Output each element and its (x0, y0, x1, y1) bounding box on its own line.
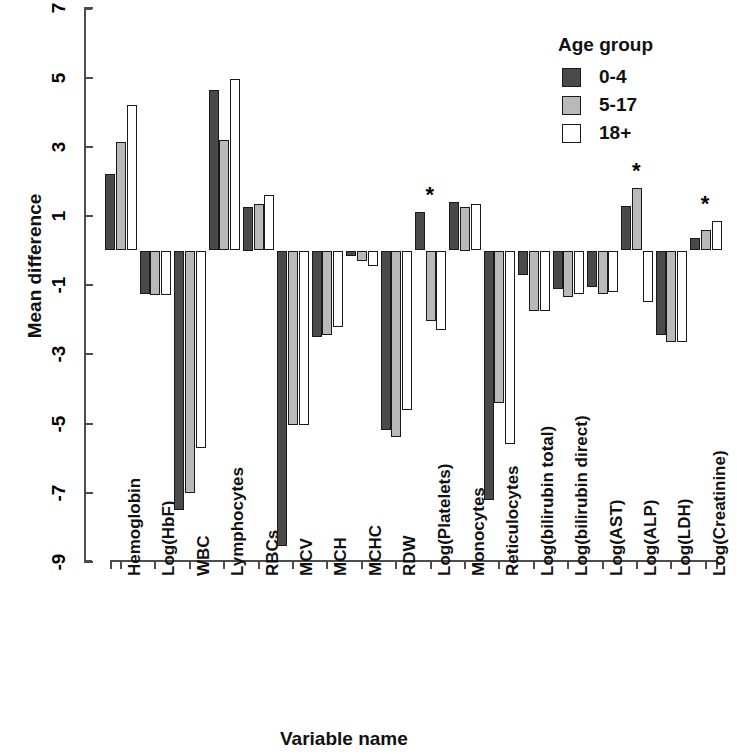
bar (608, 251, 618, 293)
bar-chart: 7531-1-3-5-7-9 Mean difference Hemoglobi… (0, 0, 737, 754)
bar (322, 251, 332, 336)
bar (150, 251, 160, 296)
bar (632, 188, 642, 250)
legend-item: 18+ (540, 122, 653, 144)
x-tick (602, 560, 604, 569)
bar (656, 251, 666, 336)
bar (426, 251, 436, 322)
y-tick (84, 561, 93, 563)
legend-title: Age group (558, 34, 653, 56)
bar (219, 140, 229, 251)
y-tick-label: -9 (44, 547, 74, 577)
bar (712, 221, 722, 250)
bar (540, 251, 550, 312)
bar (368, 251, 378, 267)
bar (587, 251, 597, 287)
legend-label: 18+ (599, 122, 631, 144)
bar (484, 251, 494, 500)
bar (701, 230, 711, 251)
y-tick-label: 5 (44, 63, 74, 93)
bar (415, 212, 425, 250)
x-tick (395, 560, 397, 569)
legend-swatch (562, 96, 581, 115)
bar (553, 251, 563, 289)
bar (598, 251, 608, 294)
bar (518, 251, 528, 275)
x-axis-cap-left (110, 560, 112, 569)
bar (140, 251, 150, 294)
x-tick (258, 560, 260, 569)
x-tick (567, 560, 569, 569)
x-tick (326, 560, 328, 569)
bar (690, 238, 700, 250)
y-tick (84, 146, 93, 148)
bar (277, 251, 287, 547)
bar (174, 251, 184, 511)
bar (346, 251, 356, 256)
y-tick (84, 7, 93, 9)
bar (105, 174, 115, 250)
bar (312, 251, 322, 338)
x-tick (670, 560, 672, 569)
y-tick-label: -3 (44, 339, 74, 369)
bar (621, 206, 631, 251)
x-tick (498, 560, 500, 569)
legend-item: 0-4 (540, 66, 653, 88)
bar (563, 251, 573, 298)
bar (402, 251, 412, 410)
x-tick (464, 560, 466, 569)
y-tick-label: 1 (44, 201, 74, 231)
bar (196, 251, 206, 448)
bar (494, 251, 504, 403)
bar (243, 207, 253, 250)
bar (185, 251, 195, 493)
bar (574, 251, 584, 294)
x-axis-title: Variable name (280, 728, 408, 750)
bar (333, 251, 343, 327)
x-tick (636, 560, 638, 569)
bar (299, 251, 309, 426)
y-tick (84, 77, 93, 79)
legend-label: 0-4 (599, 66, 626, 88)
bar (460, 207, 470, 250)
x-tick (292, 560, 294, 569)
bar (288, 251, 298, 426)
bar (505, 251, 515, 445)
bar (357, 251, 367, 261)
bar (161, 251, 171, 296)
x-tick (189, 560, 191, 569)
y-tick-label: -1 (44, 270, 74, 300)
legend-swatch (562, 68, 581, 87)
x-tick (154, 560, 156, 569)
bar (436, 251, 446, 331)
y-tick-label: -5 (44, 409, 74, 439)
y-tick (84, 353, 93, 355)
bar (264, 195, 274, 250)
significance-star-icon: * (701, 193, 710, 215)
y-tick-label: 3 (44, 132, 74, 162)
y-axis-title: Mean difference (24, 176, 46, 356)
bar (127, 105, 137, 250)
bar (391, 251, 401, 438)
x-tick (361, 560, 363, 569)
significance-star-icon: * (632, 160, 641, 182)
legend-swatch (562, 124, 581, 143)
bar (677, 251, 687, 343)
bar (381, 251, 391, 431)
legend-label: 5-17 (599, 94, 637, 116)
bar (116, 142, 126, 251)
bar (209, 90, 219, 251)
bar (643, 251, 653, 303)
bar (666, 251, 676, 343)
x-tick (120, 560, 122, 569)
significance-star-icon: * (426, 184, 435, 206)
bar (230, 79, 240, 250)
x-tick (533, 560, 535, 569)
y-tick (84, 423, 93, 425)
bar (529, 251, 539, 312)
y-tick-label: 7 (44, 0, 74, 23)
x-tick (705, 560, 707, 569)
legend-items: 0-45-1718+ (540, 66, 653, 144)
y-tick-label: -7 (44, 478, 74, 508)
x-tick (223, 560, 225, 569)
